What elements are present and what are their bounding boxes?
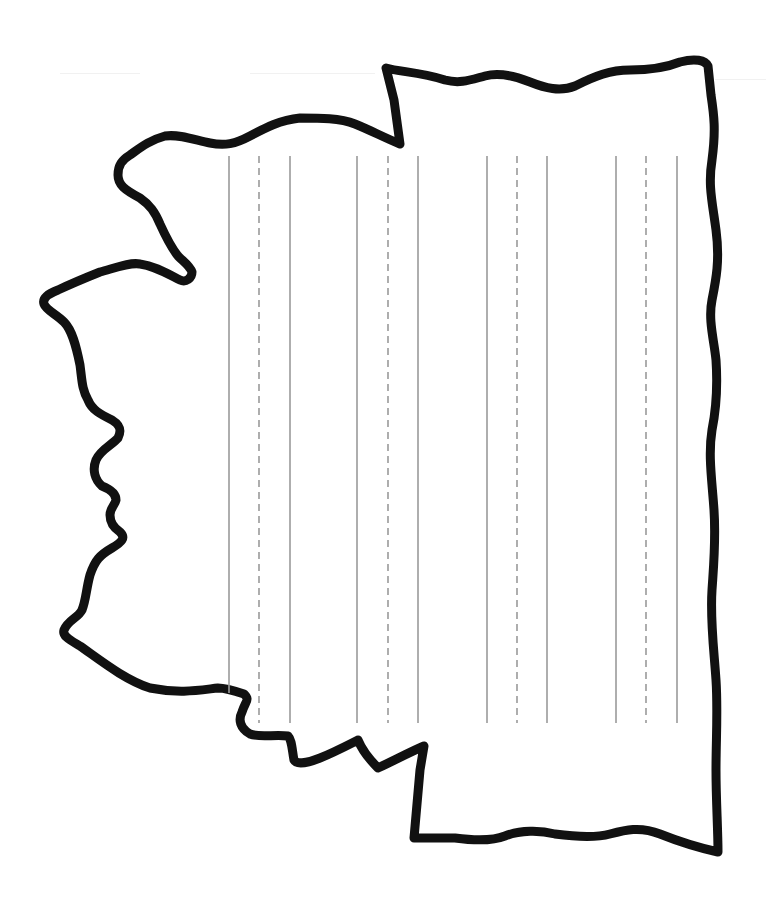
worksheet-page (0, 0, 766, 906)
worksheet-graphic (0, 0, 766, 906)
state-outline (44, 60, 718, 852)
